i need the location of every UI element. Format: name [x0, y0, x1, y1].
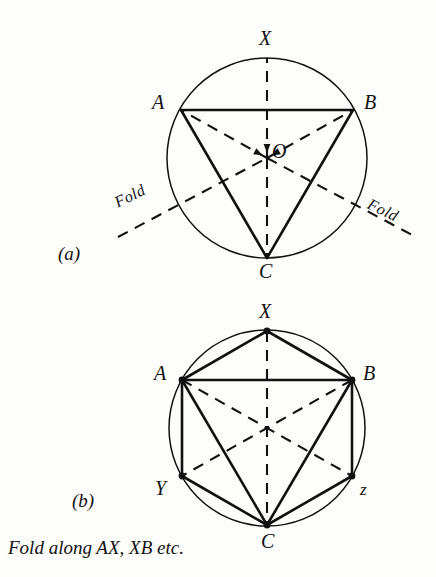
panel-label-a: (a): [58, 244, 80, 263]
arrowhead-X-to-O: [264, 144, 271, 153]
arrowhead-A-to-O: [253, 148, 263, 155]
edge-AC: [182, 380, 267, 525]
vertex-label-b-X: X: [259, 301, 271, 321]
edge-BC: [267, 380, 352, 525]
vertex-label-b-C: C: [261, 531, 274, 551]
figure-root: XABCOFoldFold(a) XABYzC(b) Fold along AX…: [0, 0, 436, 577]
vertex-dot-X: [264, 328, 271, 335]
vertex-dot-z: [349, 473, 356, 480]
vertex-label-a-B: B: [364, 92, 376, 112]
edge-AX: [182, 331, 267, 380]
vertex-label-b-z: z: [360, 481, 367, 498]
geometry-figure-svg: [0, 0, 436, 577]
vertex-dot-A: [179, 377, 186, 384]
panel-label-b: (b): [72, 491, 94, 510]
vertex-label-b-A: A: [154, 363, 166, 383]
vertex-label-a-A: A: [152, 92, 164, 112]
vertex-label-a-X: X: [259, 28, 271, 48]
edge-XB: [267, 331, 352, 380]
edge-CY: [182, 476, 267, 525]
edge-AC: [181, 110, 267, 258]
edge-BC: [267, 110, 353, 258]
vertex-label-a-C: C: [259, 261, 272, 281]
vertex-label-b-B: B: [363, 363, 375, 383]
vertex-dot-B: [349, 377, 356, 384]
panel-b-diagram: [169, 328, 365, 529]
vertex-dot-Y: [179, 473, 186, 480]
edge-zC: [267, 476, 352, 525]
vertex-label-b-Y: Y: [155, 478, 166, 498]
vertex-label-a-O: O: [272, 141, 286, 161]
vertex-dot-C: [264, 522, 271, 529]
panel-a-diagram: [118, 58, 416, 258]
figure-caption: Fold along AX, XB etc.: [8, 538, 184, 557]
